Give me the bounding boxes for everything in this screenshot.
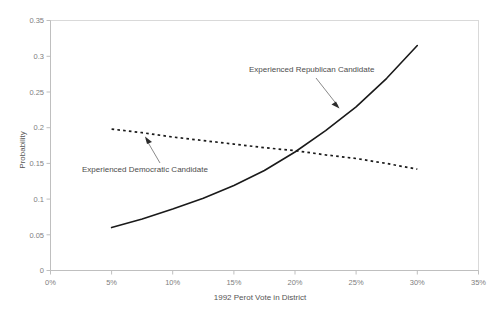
y-tick-label-0: 0 <box>40 266 44 275</box>
x-tick-label-4: 20% <box>287 278 302 287</box>
x-tick-label-2: 10% <box>165 278 180 287</box>
y-tick-label-3: 0.15 <box>29 159 44 168</box>
annotation-arrowhead-democratic <box>145 137 152 145</box>
y-tick-label-2: 0.1 <box>34 195 44 204</box>
y-tick-label-6: 0.3 <box>34 52 44 61</box>
y-tick-label-5: 0.25 <box>29 88 44 97</box>
y-tick-label-7: 0.35 <box>29 16 44 25</box>
y-tick-label-1: 0.05 <box>29 231 44 240</box>
x-tick-label-1: 5% <box>106 278 117 287</box>
x-tick-label-6: 30% <box>410 278 425 287</box>
plot-area-frame <box>51 21 479 271</box>
x-tick-label-7: 35% <box>471 278 486 287</box>
y-axis-tick-marks <box>47 21 51 271</box>
probability-line-chart: 0 0.05 0.1 0.15 0.2 0.25 0.3 0.35 0% 5% … <box>0 0 502 315</box>
x-tick-label-0: 0% <box>45 278 56 287</box>
y-tick-label-4: 0.2 <box>34 123 44 132</box>
series-line-experienced-democratic-candidate <box>112 129 418 169</box>
x-tick-label-3: 15% <box>226 278 241 287</box>
annotation-leader-line-republican <box>316 78 338 106</box>
chart-figure: 0 0.05 0.1 0.15 0.2 0.25 0.3 0.35 0% 5% … <box>0 0 502 315</box>
x-axis-title: 1992 Perot Vote in District <box>214 293 307 302</box>
annotation-arrowhead-republican <box>332 102 340 109</box>
x-axis-tick-marks <box>51 271 479 275</box>
y-axis-title: Probability <box>18 131 27 168</box>
annotation-label-experienced-democratic-candidate: Experienced Democratic Candidate <box>82 165 208 174</box>
x-tick-label-5: 25% <box>349 278 364 287</box>
annotation-label-experienced-republican-candidate: Experienced Republican Candidate <box>249 65 375 74</box>
